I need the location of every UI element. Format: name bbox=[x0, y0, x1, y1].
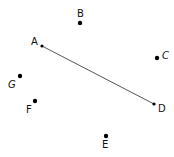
label-g: G bbox=[8, 79, 16, 90]
point-diagram: ABCDEFG bbox=[0, 0, 174, 157]
label-c: C bbox=[162, 50, 169, 61]
label-d: D bbox=[158, 103, 166, 114]
point-a bbox=[40, 44, 43, 47]
label-b: B bbox=[77, 8, 84, 19]
point-e bbox=[104, 134, 108, 138]
point-f bbox=[33, 99, 37, 103]
label-a: A bbox=[31, 36, 38, 47]
segment-ad bbox=[42, 46, 154, 104]
point-b bbox=[78, 21, 82, 25]
point-c bbox=[155, 56, 159, 60]
label-e: E bbox=[102, 139, 108, 150]
point-d bbox=[152, 102, 155, 105]
point-g bbox=[18, 74, 22, 78]
label-f: F bbox=[26, 104, 32, 115]
